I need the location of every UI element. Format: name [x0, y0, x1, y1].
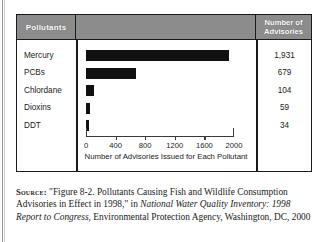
x-axis-title: Number of Advisories Issued for Each Pol…	[76, 152, 256, 161]
source-line4: Protection Agency, Washington, DC, 2000	[151, 212, 310, 222]
category-label-chlordane: Chlordane	[17, 86, 76, 95]
source-note: Source: "Figure 8-2. Pollutants Causing …	[16, 186, 316, 223]
header-advisories-line1: Number of	[265, 18, 303, 27]
x-tick-label-800: 800	[139, 141, 152, 150]
bar-dioxins	[86, 103, 90, 114]
category-label-column: MercuryPCBsChlordaneDioxinsDDT	[17, 40, 76, 171]
bar-mercury	[86, 50, 229, 61]
category-label-mercury: Mercury	[17, 51, 76, 60]
table-body: MercuryPCBsChlordaneDioxinsDDT Number of…	[17, 40, 311, 171]
x-axis-line	[86, 136, 234, 137]
source-line1: "Figure 8-2. Pollutants Causing Fish and…	[49, 187, 235, 197]
figure-table: Pollutants Number of Advisories MercuryP…	[16, 14, 312, 172]
x-tick-label-400: 400	[109, 141, 122, 150]
x-axis-right-cap	[233, 128, 234, 136]
header-advisories-line2: Advisories	[264, 27, 303, 36]
x-tick-400	[116, 136, 117, 140]
x-tick-800	[145, 136, 146, 140]
value-label-pcbs: 679	[258, 68, 311, 77]
x-tick-label-0: 0	[84, 141, 88, 150]
page-margin-rule	[2, 0, 3, 242]
bars-container	[86, 48, 234, 136]
source-label: Source:	[16, 187, 47, 197]
x-tick-1200	[175, 136, 176, 140]
bar-chart-plot: Number of Advisories Issued for Each Pol…	[76, 40, 256, 171]
x-tick-label-1600: 1600	[196, 141, 213, 150]
value-label-mercury: 1,931	[258, 51, 311, 60]
page-margin-rule-secondary	[4, 0, 5, 242]
header-number-of-advisories: Number of Advisories	[256, 15, 311, 39]
category-label-dioxins: Dioxins	[17, 103, 76, 112]
x-tick-label-2000: 2000	[226, 141, 243, 150]
bar-pcbs	[86, 68, 136, 79]
header-chart-spacer	[76, 15, 256, 39]
value-column: 1,9316791045934	[258, 40, 311, 171]
value-label-dioxins: 59	[258, 103, 311, 112]
source-line3-post: , Environmental	[89, 212, 149, 222]
source-line2-italic: National Water	[140, 199, 197, 209]
bar-chlordane	[86, 85, 94, 96]
value-label-ddt: 34	[258, 121, 311, 130]
x-tick-label-1200: 1200	[166, 141, 183, 150]
table-header-row: Pollutants Number of Advisories	[17, 15, 311, 40]
x-tick-1600	[204, 136, 205, 140]
category-label-pcbs: PCBs	[17, 68, 76, 77]
value-label-chlordane: 104	[258, 86, 311, 95]
header-pollutants: Pollutants	[17, 15, 76, 39]
category-label-ddt: DDT	[17, 121, 76, 130]
x-axis-left-cap	[86, 128, 87, 136]
